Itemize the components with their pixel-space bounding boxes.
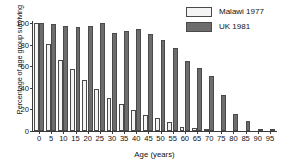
y-axis-tick-label: 60 — [3, 62, 29, 71]
x-axis-tick-label: 75 — [217, 134, 225, 143]
x-axis-tick-label: 55 — [168, 134, 176, 143]
bar-group — [118, 23, 130, 131]
x-axis-tick-label: 90 — [254, 134, 262, 143]
x-axis-tick-label: 30 — [108, 134, 116, 143]
bar-malawi — [131, 110, 136, 131]
bar-uk — [233, 114, 238, 131]
bar-malawi — [119, 104, 124, 131]
bar-group — [94, 23, 106, 131]
x-axis-tick-label: 85 — [241, 134, 249, 143]
bar-uk — [39, 23, 44, 131]
y-axis-tick-mark — [30, 131, 33, 132]
x-axis-tick-label: 50 — [156, 134, 164, 143]
bar-group — [240, 23, 252, 131]
bar-uk — [185, 61, 190, 131]
bar-uk — [161, 40, 166, 131]
bar-malawi — [192, 128, 197, 131]
bar-uk — [51, 24, 56, 131]
bar-group — [179, 23, 191, 131]
bar-group — [82, 23, 94, 131]
bar-group — [203, 23, 215, 131]
bar-group — [130, 23, 142, 131]
legend-item-uk: UK 1981 — [186, 20, 264, 33]
bar-uk — [173, 48, 178, 131]
bar-uk — [112, 33, 117, 131]
chart-legend: Malawi 1977 UK 1981 — [186, 5, 264, 35]
x-axis-tick-label: 10 — [59, 134, 67, 143]
x-axis-tick-label: 60 — [181, 134, 189, 143]
bar-malawi — [204, 129, 209, 131]
y-axis-tick-label: 40 — [3, 83, 29, 92]
bar-malawi — [94, 89, 99, 131]
legend-item-malawi: Malawi 1977 — [186, 5, 264, 18]
x-axis-tick-label: 95 — [266, 134, 274, 143]
plot-area — [33, 23, 276, 131]
bar-uk — [88, 26, 93, 131]
bar-malawi — [70, 69, 75, 131]
bar-group — [155, 23, 167, 131]
x-axis-tick-label: 80 — [229, 134, 237, 143]
x-axis-tick-label: 20 — [83, 134, 91, 143]
bar-malawi — [34, 23, 39, 131]
bar-group — [57, 23, 69, 131]
bar-uk — [148, 34, 153, 131]
bar-malawi — [82, 80, 87, 131]
x-axis-tick-label: 5 — [49, 134, 53, 143]
bar-malawi — [46, 44, 51, 131]
x-axis-line — [32, 131, 277, 132]
x-axis-tick-label: 65 — [193, 134, 201, 143]
bar-malawi — [107, 98, 112, 131]
bar-uk — [76, 27, 81, 131]
bar-group — [69, 23, 81, 131]
x-axis-tick-label: 15 — [71, 134, 79, 143]
legend-label-uk: UK 1981 — [219, 22, 250, 31]
legend-swatch-uk — [186, 22, 212, 32]
x-axis-tick-label: 35 — [120, 134, 128, 143]
bar-group — [252, 23, 264, 131]
legend-label-malawi: Malawi 1977 — [219, 7, 264, 16]
x-axis-tick-label: 45 — [144, 134, 152, 143]
bar-group — [264, 23, 276, 131]
bar-uk — [246, 121, 251, 131]
bar-uk — [209, 76, 214, 131]
bar-malawi — [180, 127, 185, 131]
bar-uk — [124, 31, 129, 131]
bar-group — [215, 23, 227, 131]
y-axis-tick-label: 80 — [3, 40, 29, 49]
bar-uk — [197, 68, 202, 131]
y-axis-tick-label: 0 — [3, 127, 29, 136]
y-axis-tick-label: 100 — [3, 19, 29, 28]
x-axis-title: Age (years) — [33, 150, 276, 159]
x-axis-tick-label: 40 — [132, 134, 140, 143]
x-axis-tick-label: 70 — [205, 134, 213, 143]
bar-malawi — [155, 118, 160, 131]
bar-uk — [136, 29, 141, 131]
bar-group — [45, 23, 57, 131]
bar-chart: Percentage of age group surviving 020406… — [0, 0, 285, 168]
bar-group — [167, 23, 179, 131]
bar-uk — [221, 95, 226, 131]
bar-malawi — [167, 122, 172, 131]
bar-malawi — [143, 115, 148, 131]
bar-group — [106, 23, 118, 131]
x-axis-tick-label: 25 — [96, 134, 104, 143]
bar-uk — [63, 26, 68, 131]
x-axis-tick-label: 0 — [37, 134, 41, 143]
bar-group — [191, 23, 203, 131]
y-axis-tick-label: 20 — [3, 105, 29, 114]
bar-group — [227, 23, 239, 131]
bar-group — [142, 23, 154, 131]
bar-malawi — [58, 60, 63, 131]
bar-group — [33, 23, 45, 131]
bar-uk — [100, 23, 105, 131]
legend-swatch-malawi — [186, 7, 212, 17]
